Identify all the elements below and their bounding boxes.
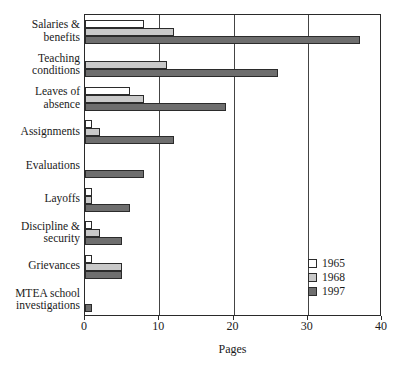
category-label: Assignments bbox=[0, 125, 80, 138]
category-label: Discipline & security bbox=[0, 220, 80, 245]
x-axis-title: Pages bbox=[84, 342, 381, 357]
legend-item: 1968 bbox=[308, 272, 345, 283]
bar-group bbox=[85, 149, 380, 183]
bar-stack bbox=[85, 49, 380, 83]
bar-stack bbox=[85, 149, 380, 183]
bar-stack bbox=[85, 216, 380, 250]
x-tick-label: 40 bbox=[361, 319, 398, 334]
bar-stack bbox=[85, 183, 380, 217]
bar-1997 bbox=[85, 103, 226, 111]
bar-group bbox=[85, 216, 380, 250]
bar-1997 bbox=[85, 69, 278, 77]
bar-1968 bbox=[85, 196, 92, 204]
bar-1968 bbox=[85, 229, 100, 237]
bar-1997 bbox=[85, 136, 174, 144]
legend-item: 1965 bbox=[308, 258, 345, 269]
category-label: Teaching conditions bbox=[0, 52, 80, 77]
x-tick-label: 30 bbox=[287, 319, 327, 334]
x-tick-label: 10 bbox=[138, 319, 178, 334]
legend-swatch-icon bbox=[308, 287, 317, 296]
bar-stack bbox=[85, 116, 380, 150]
bar-group bbox=[85, 82, 380, 116]
bar-1997 bbox=[85, 204, 130, 212]
bar-1965 bbox=[85, 87, 130, 95]
category-label: Grievances bbox=[0, 259, 80, 272]
bar-1965 bbox=[85, 120, 92, 128]
bar-1965 bbox=[85, 221, 92, 229]
bar-1968 bbox=[85, 128, 100, 136]
bar-1997 bbox=[85, 237, 122, 245]
bar-1968 bbox=[85, 263, 122, 271]
category-label: MTEA school investigations bbox=[0, 287, 80, 312]
bar-group bbox=[85, 116, 380, 150]
category-label: Leaves of absence bbox=[0, 85, 80, 110]
bar-1997 bbox=[85, 304, 92, 312]
category-label: Layoffs bbox=[0, 192, 80, 205]
legend: 196519681997 bbox=[308, 258, 345, 297]
bar-1997 bbox=[85, 170, 144, 178]
legend-label: 1997 bbox=[322, 286, 345, 297]
x-tick-label: 20 bbox=[213, 319, 253, 334]
bar-1997 bbox=[85, 271, 122, 279]
bar-1965 bbox=[85, 20, 144, 28]
bar-stack bbox=[85, 15, 380, 49]
x-tick-label: 0 bbox=[64, 319, 104, 334]
bar-1965 bbox=[85, 255, 92, 263]
bar-1965 bbox=[85, 188, 92, 196]
category-label: Salaries & benefits bbox=[0, 18, 80, 43]
bar-group bbox=[85, 183, 380, 217]
legend-label: 1965 bbox=[322, 258, 345, 269]
bar-chart: Salaries & benefitsTeaching conditionsLe… bbox=[0, 0, 398, 369]
bar-1968 bbox=[85, 28, 174, 36]
legend-swatch-icon bbox=[308, 259, 317, 268]
bar-group bbox=[85, 49, 380, 83]
category-label: Evaluations bbox=[0, 159, 80, 172]
legend-item: 1997 bbox=[308, 286, 345, 297]
bar-1997 bbox=[85, 36, 360, 44]
bar-stack bbox=[85, 82, 380, 116]
legend-swatch-icon bbox=[308, 273, 317, 282]
bar-group bbox=[85, 15, 380, 49]
legend-label: 1968 bbox=[322, 272, 345, 283]
bar-1968 bbox=[85, 61, 167, 69]
bar-1968 bbox=[85, 95, 144, 103]
